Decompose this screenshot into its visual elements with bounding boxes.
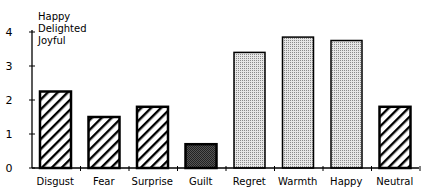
- x-tick-label: Disgust: [36, 176, 74, 187]
- bar-happy: [331, 41, 362, 169]
- bar-regret: [234, 52, 265, 168]
- x-tick-label: Happy: [330, 176, 362, 187]
- annotation-line: Delighted: [38, 23, 87, 34]
- x-tick-label: Warmth: [278, 176, 317, 187]
- annotation-line: Joyful: [37, 35, 66, 46]
- bar-surprise: [137, 107, 168, 168]
- annotation-line: Happy: [38, 11, 70, 22]
- bar-warmth: [283, 37, 314, 168]
- x-tick-label: Guilt: [189, 176, 213, 187]
- bar-chart: HappyDelightedJoyful DisgustFearSurprise…: [0, 0, 436, 196]
- y-tick-label: 1: [6, 128, 13, 141]
- bars: [40, 37, 411, 168]
- bar-fear: [89, 117, 120, 168]
- y-tick-label: 4: [6, 26, 13, 39]
- chart-annotation: HappyDelightedJoyful: [37, 11, 87, 46]
- bar-disgust: [40, 92, 71, 169]
- x-tick-label: Fear: [93, 176, 115, 187]
- x-tick-label: Regret: [233, 176, 266, 187]
- y-tick-label: 0: [6, 162, 13, 175]
- y-tick-label: 3: [6, 60, 13, 73]
- x-tick-label: Neutral: [376, 176, 413, 187]
- x-tick-label: Surprise: [132, 176, 173, 187]
- bar-neutral: [380, 107, 411, 168]
- y-tick-label: 2: [6, 94, 13, 107]
- bar-guilt: [186, 144, 217, 168]
